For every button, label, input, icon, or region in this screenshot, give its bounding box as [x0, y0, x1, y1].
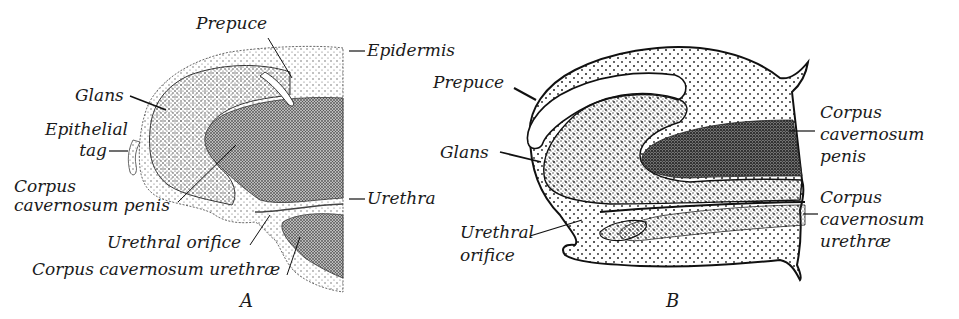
figure-b-drawing: [500, 47, 818, 280]
label-b-orifice: orifice: [460, 246, 515, 265]
label-b-urethral: Urethral: [460, 223, 534, 242]
label-a-prepuce: Prepuce: [196, 14, 267, 33]
label-a-epithelial: Epithelial: [40, 120, 128, 139]
caption-b: B: [666, 290, 679, 311]
label-a-corpus-penis-line2: cavernosum penis: [14, 196, 170, 215]
label-a-glans: Glans: [75, 86, 124, 105]
label-b-corpus-urethrae-line3: urethræ: [820, 232, 891, 251]
label-b-corpus-urethrae-line2: cavernosum: [820, 210, 924, 229]
label-b-glans: Glans: [440, 143, 489, 162]
label-a-corpus-penis-line1: Corpus: [14, 177, 76, 196]
label-a-tag: tag: [40, 141, 107, 160]
label-a-epidermis: Epidermis: [367, 41, 455, 60]
label-b-corpus-urethrae-line1: Corpus: [820, 188, 882, 207]
figure-a-epithelial-tag: [128, 140, 140, 175]
label-b-corpus-penis-line1: Corpus: [820, 103, 882, 122]
label-b-corpus-penis-line2: cavernosum: [820, 125, 924, 144]
leader-b-prepuce: [514, 88, 536, 100]
label-a-corpus-urethrae: Corpus cavernosum urethræ: [32, 260, 280, 279]
label-a-urethral-orifice: Urethral orifice: [107, 233, 241, 252]
caption-a: A: [240, 290, 253, 311]
figure-a-drawing: [109, 38, 365, 292]
label-a-urethra: Urethra: [367, 189, 436, 208]
label-b-prepuce: Prepuce: [433, 73, 504, 92]
label-b-corpus-penis-line3: penis: [820, 147, 866, 166]
